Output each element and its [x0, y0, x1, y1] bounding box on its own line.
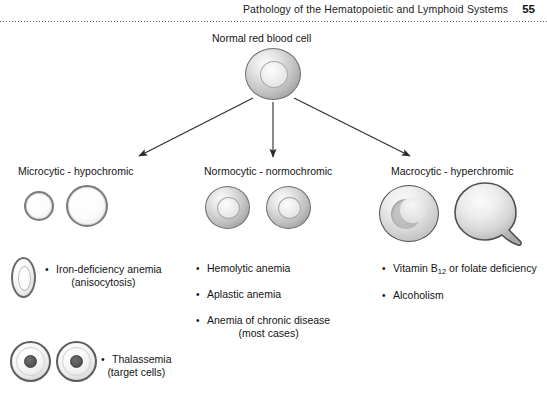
target-center-dot: [24, 355, 37, 368]
running-head-title: Pathology of the Hematopoietic and Lymph…: [243, 3, 508, 15]
macrocytic-cell-icon: [379, 185, 439, 242]
condition-vitamin-b12-subscript: 12: [438, 267, 446, 276]
condition-list-normocytic: Hemolytic anemia Aplastic anemia Anemia …: [196, 262, 330, 353]
condition-chronic-disease-text: Anemia of chronic disease: [207, 314, 330, 326]
header-divider-rule: [0, 21, 547, 22]
condition-hemolytic-anemia: Hemolytic anemia: [196, 262, 330, 275]
central-pallor: [278, 197, 301, 219]
category-label-microcytic: Microcytic - hypochromic: [18, 165, 134, 177]
normocytic-cell-left-icon: [205, 186, 250, 229]
page: Pathology of the Hematopoietic and Lymph…: [0, 0, 547, 416]
condition-list-macrocytic: Vitamin B12 or folate deficiency Alcohol…: [382, 262, 537, 315]
page-number: 55: [522, 3, 535, 15]
arrow-to-microcytic: [139, 98, 253, 156]
condition-aplastic-anemia: Aplastic anemia: [196, 288, 330, 301]
target-cell-right-icon: [56, 341, 97, 382]
normocytic-cell-right-icon: [266, 186, 311, 229]
arrow-to-macrocytic: [294, 98, 410, 156]
condition-vitamin-b12-folate: Vitamin B12 or folate deficiency: [382, 262, 537, 276]
target-center-dot: [70, 355, 83, 368]
teardrop-cell-icon: [452, 180, 532, 248]
crescent-cut: [400, 197, 426, 223]
condition-thalassemia-text: Thalassemia: [101, 353, 172, 366]
condition-alcoholism-text: Alcoholism: [393, 289, 444, 301]
category-label-macrocytic: Macrocytic - hyperchromic: [391, 165, 514, 177]
root-label: Normal red blood cell: [212, 32, 311, 44]
condition-iron-deficiency: Iron-deficiency anemia (anisocytosis): [45, 263, 162, 289]
condition-chronic-disease: Anemia of chronic disease (most cases): [196, 314, 330, 340]
condition-iron-deficiency-subtext: (anisocytosis): [45, 276, 162, 289]
running-head: Pathology of the Hematopoietic and Lymph…: [243, 3, 535, 15]
condition-thalassemia: Thalassemia (target cells): [101, 353, 172, 379]
condition-thalassemia-subtext: (target cells): [101, 366, 172, 379]
central-pallor: [217, 197, 240, 219]
condition-vitamin-b12-prefix: Vitamin B: [393, 262, 438, 274]
elliptocyte-pencil-cell-icon: [11, 257, 36, 298]
condition-vitamin-b12-suffix: or folate deficiency: [446, 262, 536, 274]
microcytic-hypochromic-cell-large-icon: [66, 185, 108, 227]
elliptocyte-inner-pallor: [18, 266, 31, 291]
category-label-normocytic: Normocytic - normochromic: [204, 165, 332, 177]
microcytic-hypochromic-cell-small-icon: [24, 191, 54, 221]
central-pallor: [260, 61, 288, 88]
condition-iron-deficiency-text: Iron-deficiency anemia: [45, 263, 162, 276]
condition-aplastic-anemia-text: Aplastic anemia: [207, 288, 281, 300]
target-cell-left-icon: [10, 341, 51, 382]
condition-chronic-disease-subtext: (most cases): [207, 327, 330, 340]
condition-hemolytic-anemia-text: Hemolytic anemia: [207, 262, 290, 274]
normal-red-blood-cell-icon: [245, 48, 301, 100]
condition-alcoholism: Alcoholism: [382, 289, 537, 302]
